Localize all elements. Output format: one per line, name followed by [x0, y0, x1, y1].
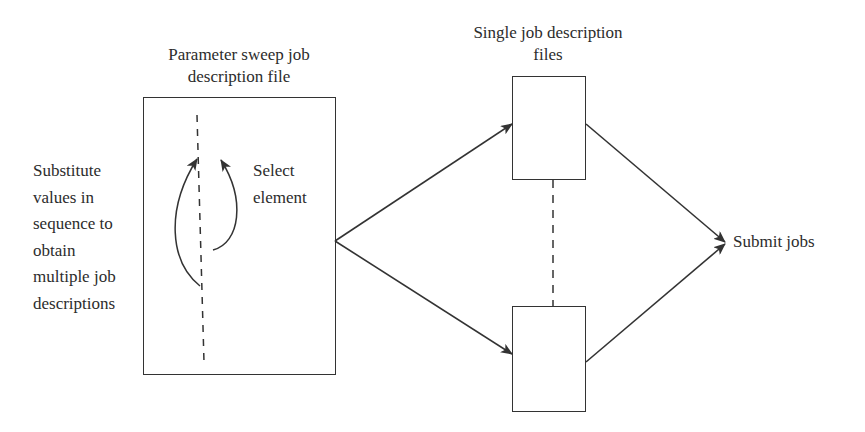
arrow-bottom-to-submit: [586, 244, 725, 362]
parameter-sweep-diagram: Parameter sweep job description file Sub…: [0, 0, 865, 432]
arrow-to-bottom-file: [335, 241, 512, 354]
connectors: [0, 0, 865, 432]
arrow-top-to-submit: [586, 124, 725, 242]
select-arrow: [213, 160, 237, 250]
element-dashed-line: [197, 115, 204, 362]
arrow-to-top-file: [335, 124, 512, 241]
substitute-arrow: [175, 159, 200, 286]
